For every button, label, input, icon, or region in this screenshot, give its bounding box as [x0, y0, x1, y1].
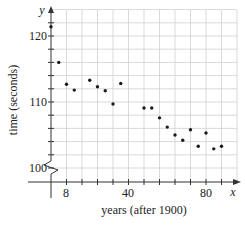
data-point	[212, 147, 215, 150]
y-tick-label-120: 120	[29, 29, 47, 43]
y-tick-label-100: 100	[29, 161, 47, 175]
grid	[51, 10, 237, 182]
data-point	[181, 139, 184, 142]
y-axis-variable: y	[38, 3, 45, 17]
data-point	[96, 85, 99, 88]
data-point	[65, 82, 68, 85]
y-axis-title: time (seconds)	[6, 65, 20, 135]
data-point	[150, 106, 153, 109]
data-point	[220, 145, 223, 148]
plot-area: 8 40 80 120 110 100 x y years (after 190…	[0, 0, 245, 227]
ticks	[48, 23, 222, 185]
data-point	[173, 133, 176, 136]
data-point	[197, 145, 200, 148]
y-tick-label-110: 110	[29, 95, 47, 109]
x-tick-label-8: 8	[63, 186, 69, 200]
data-point	[49, 25, 52, 28]
data-point	[73, 88, 76, 91]
data-point	[166, 125, 169, 128]
data-point	[88, 79, 91, 82]
x-tick-label-40: 40	[122, 186, 134, 200]
scatter-chart: 8 40 80 120 110 100 x y years (after 190…	[0, 0, 245, 227]
x-axis-variable: x	[229, 185, 236, 199]
data-point	[204, 131, 207, 134]
data-point	[104, 89, 107, 92]
data-points	[49, 25, 223, 151]
x-tick-label-80: 80	[200, 186, 212, 200]
data-point	[142, 106, 145, 109]
data-point	[57, 61, 60, 64]
data-point	[119, 82, 122, 85]
data-point	[189, 128, 192, 131]
data-point	[158, 116, 161, 119]
x-axis-title: years (after 1900)	[101, 203, 186, 217]
data-point	[111, 102, 114, 105]
